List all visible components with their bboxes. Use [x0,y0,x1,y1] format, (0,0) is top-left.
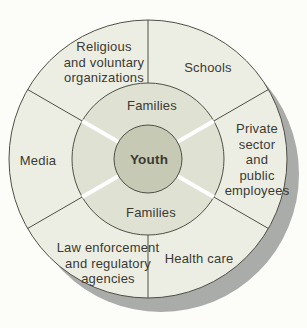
middle-ring-label-families-top: Families [127,98,177,114]
outer-segment-label-private-sector-public-employees: Private sector and public employees [225,121,290,199]
outer-segment-label-religious-voluntary-organizations: Religious and voluntary organizations [64,39,145,86]
middle-ring-label-families-bottom: Families [126,205,176,221]
outer-segment-label-law-enforcement-regulatory-agencies: Law enforcement and regulatory agencies [57,240,160,287]
outer-segment-label-media: Media [20,153,56,169]
outer-segment-label-schools: Schools [184,60,232,76]
outer-segment-label-health-care: Health care [165,251,234,267]
ecological-model-diagram: Religious and voluntary organizations Sc… [0,0,307,328]
center-label-youth: Youth [130,152,168,168]
